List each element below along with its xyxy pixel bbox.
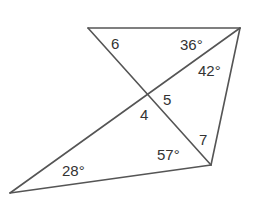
angle-label-42: 42° [198, 62, 221, 79]
bottom-segment [10, 165, 211, 193]
geometry-diagram: 6 36° 42° 5 4 7 57° 28° [0, 0, 255, 198]
diagonal-top-right-to-bottom-left [10, 28, 240, 193]
angle-label-36: 36° [180, 36, 203, 53]
angle-label-4: 4 [140, 106, 148, 123]
right-segment [211, 28, 240, 165]
angle-label-6: 6 [111, 35, 119, 52]
angle-label-5: 5 [163, 91, 171, 108]
angle-label-57: 57° [157, 146, 180, 163]
angle-label-28: 28° [62, 162, 85, 179]
angle-label-7: 7 [199, 131, 207, 148]
